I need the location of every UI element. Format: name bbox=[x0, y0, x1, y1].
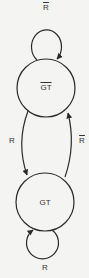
self-loop-gt-label: R bbox=[42, 264, 48, 272]
self-loop-not-gt bbox=[32, 30, 62, 60]
transition-gt-to-not-gt bbox=[65, 113, 71, 177]
transition-not-gt-to-gt bbox=[22, 111, 28, 175]
transition-not-gt-to-gt-label: R bbox=[9, 137, 15, 145]
self-loop-gt bbox=[26, 230, 58, 259]
state-gt-label: GT bbox=[39, 199, 50, 207]
transition-gt-to-not-gt-label: R bbox=[79, 137, 85, 145]
self-loop-not-gt-label: R bbox=[43, 4, 49, 12]
state-not-gt-label: GT bbox=[40, 84, 51, 92]
